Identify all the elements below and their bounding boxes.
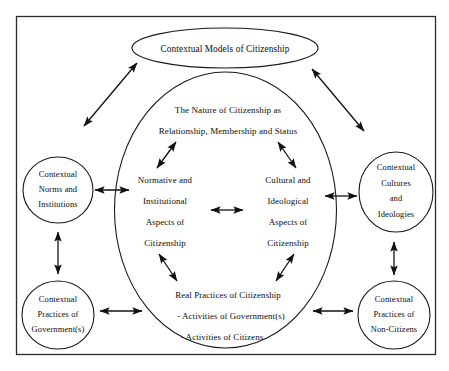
arrow-nature-to-normative bbox=[157, 142, 176, 168]
left-aspect-line4: Citizenship bbox=[144, 238, 186, 248]
norms-node-line3: Institutions bbox=[38, 199, 77, 209]
noncit-node-line1: Contextual bbox=[375, 294, 414, 304]
right-aspect-line2: Ideological bbox=[267, 196, 308, 206]
practices-line1: Real Practices of Citizenship bbox=[175, 290, 281, 300]
diagram-border bbox=[17, 17, 436, 355]
arrow-normative-to-practices bbox=[159, 254, 177, 281]
practices-line3: - Activities of Citizens bbox=[181, 332, 264, 342]
gov-node-line2: Practices of bbox=[37, 309, 78, 319]
noncit-node-line2: Practices of bbox=[373, 309, 414, 319]
right-aspect-line3: Aspects of bbox=[269, 217, 308, 227]
cultures-node-line4: Ideologies bbox=[378, 209, 414, 219]
arrow-nature-to-cultural bbox=[278, 142, 296, 168]
gov-node-line1: Contextual bbox=[39, 294, 78, 304]
right-aspect-line1: Cultural and bbox=[265, 175, 311, 185]
norms-node-line1: Contextual bbox=[39, 169, 78, 179]
arrow-cultural-to-practices bbox=[276, 254, 294, 281]
center-heading-line1: The Nature of Citizenship as bbox=[175, 105, 282, 115]
left-aspect-line3: Aspects of bbox=[146, 217, 185, 227]
diagram-canvas: Contextual Models of Citizenship Context… bbox=[0, 0, 449, 371]
citizenship-model-diagram: Contextual Models of Citizenship Context… bbox=[0, 0, 449, 371]
left-aspect-line2: Institutional bbox=[143, 196, 188, 206]
arrow-models-to-cultures bbox=[312, 69, 364, 131]
arrow-models-to-norms bbox=[84, 63, 137, 126]
cultures-node-line3: and bbox=[390, 193, 403, 203]
noncit-node-line3: Non-Citizens bbox=[371, 324, 418, 334]
practices-line2: - Activities of Government(s) bbox=[177, 311, 285, 321]
gov-node-line3: Government(s) bbox=[32, 324, 85, 334]
center-heading-line2: Relationship, Membership and Status bbox=[159, 126, 298, 136]
right-aspect-line4: Citizenship bbox=[267, 238, 309, 248]
left-aspect-line1: Normative and bbox=[138, 175, 193, 185]
cultures-node-line2: Cultures bbox=[381, 178, 411, 188]
top-node-label: Contextual Models of Citizenship bbox=[161, 44, 290, 54]
cultures-node-line1: Contextual bbox=[377, 162, 416, 172]
norms-node-line2: Norms and bbox=[39, 184, 78, 194]
